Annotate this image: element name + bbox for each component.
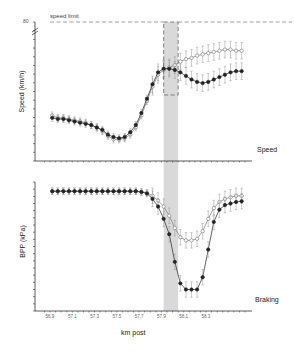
filled-marker [156,205,159,208]
filled-marker [201,81,204,84]
filled-marker [90,190,93,193]
filled-marker [190,78,193,81]
filled-marker [78,190,81,193]
speed-plot [32,22,292,163]
filled-marker [201,276,204,279]
filled-marker [51,116,54,119]
x-tick-label: 57.9 [157,314,166,319]
open-marker [179,60,182,63]
filled-marker [218,208,221,211]
speed-top-tick-label: 80 [23,18,29,24]
filled-marker [117,137,120,140]
filled-marker [112,135,115,138]
filled-marker [140,190,143,193]
filled-marker [151,197,154,200]
series-line [52,191,241,289]
x-axis-label: km post [121,329,146,336]
speed-panel-label: Speed [257,146,277,153]
filled-marker [184,288,187,291]
filled-marker [162,217,165,220]
x-tick-label: 57.7 [135,314,144,319]
filled-marker [90,123,93,126]
filled-marker [240,69,243,72]
filled-marker [140,111,143,114]
filled-marker [223,203,226,206]
filled-marker [112,190,115,193]
filled-marker [106,190,109,193]
filled-marker [179,282,182,285]
filled-marker [229,71,232,74]
open-marker [184,57,187,60]
open-marker [240,49,243,52]
open-marker [212,206,215,209]
filled-marker [156,71,159,74]
open-marker [223,48,226,51]
filled-marker [179,71,182,74]
open-marker [168,214,171,217]
filled-marker [51,190,54,193]
filled-marker [173,68,176,71]
filled-marker [106,133,109,136]
filled-marker [234,200,237,203]
x-tick-label: 57.1 [68,314,77,319]
filled-marker [212,78,215,81]
braking-plot [33,182,252,313]
braking-panel-label: Braking [255,296,279,303]
filled-marker [207,248,210,251]
filled-marker [134,190,137,193]
filled-marker [129,131,132,134]
filled-marker [84,122,87,125]
filled-marker [223,73,226,76]
filled-marker [73,190,76,193]
open-marker [195,54,198,57]
x-tick-label: 57.3 [90,314,99,319]
filled-marker [168,233,171,236]
open-marker [201,229,204,232]
speed-y-axis-label: Speed (km/h) [18,67,25,117]
filled-marker [240,199,243,202]
open-marker [184,239,187,242]
filled-marker [190,288,193,291]
filled-marker [145,97,148,100]
bpp-y-axis-label: BPP (kPa) [19,217,26,267]
x-tick-label: 58.1 [179,314,188,319]
filled-marker [212,220,215,223]
filled-marker [168,67,171,70]
speed-limit-annotation: speed limit [50,13,79,19]
filled-marker [101,128,104,131]
filled-marker [67,119,70,122]
x-tick-label: 57.5 [112,314,121,319]
open-marker [229,48,232,51]
filled-marker [101,190,104,193]
filled-marker [95,190,98,193]
filled-marker [62,117,65,120]
filled-marker [229,202,232,205]
open-marker [195,237,198,240]
filled-marker [173,260,176,263]
open-marker [234,49,237,52]
open-marker [190,56,193,59]
filled-marker [84,190,87,193]
open-marker [162,205,165,208]
filled-marker [195,288,198,291]
filled-marker [73,120,76,123]
filled-marker [67,190,70,193]
open-marker [190,239,193,242]
filled-marker [78,121,81,124]
open-marker [173,226,176,229]
filled-marker [218,75,221,78]
filled-marker [195,80,198,83]
filled-marker [145,192,148,195]
filled-marker [234,69,237,72]
open-marker [179,236,182,239]
open-marker [207,51,210,54]
figure: 56.957.157.357.557.757.958.158.3 [0,0,295,354]
filled-marker [117,190,120,193]
filled-marker [129,190,132,193]
x-tick-labels: 56.957.157.357.557.757.958.158.3 [46,314,211,319]
filled-marker [134,123,137,126]
x-tick-label: 56.9 [46,314,55,319]
open-marker [212,50,215,53]
open-marker [207,217,210,220]
filled-marker [184,74,187,77]
